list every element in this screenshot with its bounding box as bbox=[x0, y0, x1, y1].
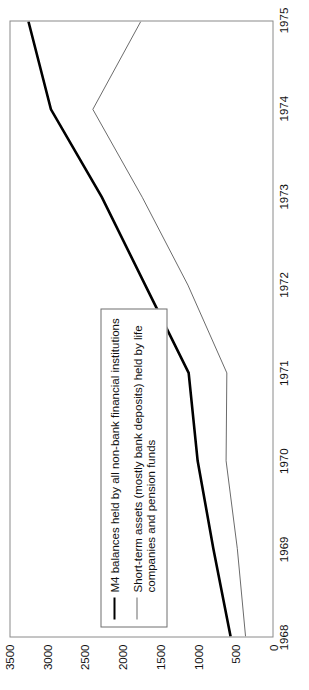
y-tick-label: 3000 bbox=[41, 644, 53, 670]
y-tick-label: 3500 bbox=[3, 644, 15, 670]
thick-line-swatch bbox=[108, 597, 120, 619]
x-tick-label: 1971 bbox=[277, 360, 289, 386]
legend-item-label: M4 balances held by all non-bank financi… bbox=[108, 318, 122, 592]
rotated-figure-wrapper: 0500100015002000250030003500 19681969197… bbox=[0, 0, 309, 690]
y-axis: 0500100015002000250030003500 bbox=[0, 640, 309, 690]
legend-item: Short-term assets (mostly bank deposits)… bbox=[131, 318, 158, 619]
x-axis: 19681969197019711972197319741975 bbox=[275, 20, 299, 637]
y-tick-label: 500 bbox=[229, 644, 241, 663]
y-tick-label: 1500 bbox=[154, 644, 166, 670]
chart-legend: M4 balances held by all non-bank financi… bbox=[100, 308, 167, 627]
legend-item: M4 balances held by all non-bank financi… bbox=[108, 318, 122, 619]
y-tick-label: 2000 bbox=[116, 644, 128, 670]
chart-figure: 0500100015002000250030003500 19681969197… bbox=[0, 0, 309, 690]
x-tick-label: 1968 bbox=[277, 624, 289, 650]
x-tick-label: 1972 bbox=[277, 272, 289, 298]
thin-line-swatch bbox=[131, 597, 143, 619]
legend-item-label: Short-term assets (mostly bank deposits)… bbox=[131, 325, 158, 592]
x-tick-label: 1975 bbox=[277, 7, 289, 33]
x-tick-label: 1973 bbox=[277, 184, 289, 210]
x-tick-label: 1969 bbox=[277, 536, 289, 562]
y-tick-label: 2500 bbox=[78, 644, 90, 670]
y-tick-label: 1000 bbox=[192, 644, 204, 670]
x-tick-label: 1970 bbox=[277, 448, 289, 474]
x-tick-label: 1974 bbox=[277, 95, 289, 121]
